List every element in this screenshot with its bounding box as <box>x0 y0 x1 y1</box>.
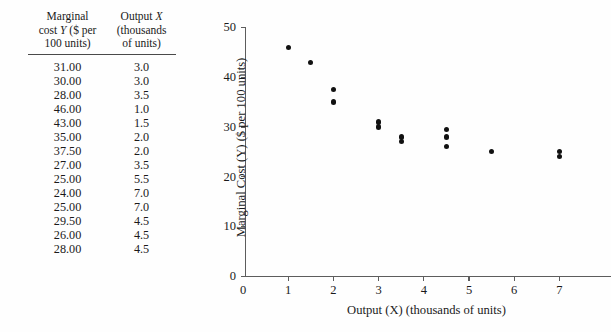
scatter-chart: 01020304050 01234567 Marginal Cost (Y) (… <box>196 0 611 332</box>
data-point <box>286 45 291 50</box>
cell-marginal-cost: 24.00 <box>28 186 107 200</box>
header-line: (thousands <box>109 24 174 38</box>
table-row: 29.504.5 <box>28 214 176 228</box>
cell-output: 4.5 <box>107 214 176 228</box>
cell-output: 4.5 <box>107 242 176 256</box>
header-line: Output X <box>109 10 174 24</box>
y-axis-tick-label: 0 <box>210 270 236 283</box>
cell-marginal-cost: 28.00 <box>28 242 107 256</box>
cell-output: 1.0 <box>107 102 176 116</box>
cell-marginal-cost: 26.00 <box>28 228 107 242</box>
table-row: 46.001.0 <box>28 102 176 116</box>
column-header-marginal-cost: Marginal cost Y ($ per 100 units) <box>28 10 107 54</box>
cell-output: 3.0 <box>107 54 176 74</box>
cell-marginal-cost: 25.00 <box>28 172 107 186</box>
header-line: cost Y ($ per <box>30 24 105 38</box>
table-row: 43.001.5 <box>28 116 176 130</box>
x-axis-tick-label: 0 <box>232 284 254 297</box>
data-point <box>444 144 449 149</box>
cell-output: 4.5 <box>107 228 176 242</box>
cell-marginal-cost: 31.00 <box>28 54 107 74</box>
data-point <box>376 124 381 129</box>
header-line: 100 units) <box>30 37 105 51</box>
y-axis-tick <box>241 276 246 277</box>
cell-marginal-cost: 29.50 <box>28 214 107 228</box>
table-row: 37.502.0 <box>28 144 176 158</box>
column-header-output: Output X (thousands of units) <box>107 10 176 54</box>
cell-marginal-cost: 25.00 <box>28 200 107 214</box>
cell-marginal-cost: 46.00 <box>28 102 107 116</box>
cell-output: 3.5 <box>107 158 176 172</box>
table-body: 31.003.030.003.028.003.546.001.043.001.5… <box>28 54 176 256</box>
data-point <box>331 99 336 104</box>
table-row: 31.003.0 <box>28 54 176 74</box>
table-header-row: Marginal cost Y ($ per 100 units) Output… <box>28 10 176 54</box>
table-row: 27.003.5 <box>28 158 176 172</box>
data-point <box>557 154 562 159</box>
x-axis-tick-label: 2 <box>322 284 344 297</box>
data-point <box>444 134 449 139</box>
x-axis-title: Output (X) (thousands of units) <box>242 303 611 318</box>
plot-area: 01020304050 01234567 Marginal Cost (Y) (… <box>196 0 611 332</box>
data-point <box>308 60 313 65</box>
x-axis-line <box>242 276 611 277</box>
data-point <box>331 87 336 92</box>
table-row: 25.007.0 <box>28 200 176 214</box>
cell-marginal-cost: 28.00 <box>28 88 107 102</box>
x-axis-tick <box>288 276 289 281</box>
table-row: 28.004.5 <box>28 242 176 256</box>
y-axis-tick-label: 40 <box>210 71 236 84</box>
data-point <box>444 127 449 132</box>
cell-marginal-cost: 37.50 <box>28 144 107 158</box>
table-header: Marginal cost Y ($ per 100 units) Output… <box>28 10 176 54</box>
header-line: of units) <box>109 37 174 51</box>
table-row: 30.003.0 <box>28 74 176 88</box>
observations-table: Marginal cost Y ($ per 100 units) Output… <box>28 10 176 256</box>
x-axis-tick <box>559 276 560 281</box>
cell-output: 2.0 <box>107 144 176 158</box>
data-point <box>399 139 404 144</box>
cell-output: 5.5 <box>107 172 176 186</box>
table-row: 24.007.0 <box>28 186 176 200</box>
cell-marginal-cost: 27.00 <box>28 158 107 172</box>
y-axis-tick-label: 20 <box>210 171 236 184</box>
cell-output: 7.0 <box>107 186 176 200</box>
y-axis-tick-label: 10 <box>210 220 236 233</box>
data-table: Marginal cost Y ($ per 100 units) Output… <box>28 10 176 256</box>
header-line: Marginal <box>30 10 105 24</box>
data-point <box>489 149 494 154</box>
x-axis-tick-label: 4 <box>413 284 435 297</box>
y-axis-title: Marginal Cost (Y) ($ per 100 units) <box>234 23 249 273</box>
x-axis-tick-label: 1 <box>277 284 299 297</box>
x-axis-tick <box>378 276 379 281</box>
cell-output: 2.0 <box>107 130 176 144</box>
x-axis-tick-label: 7 <box>548 284 570 297</box>
x-axis-tick <box>423 276 424 281</box>
x-axis-tick <box>333 276 334 281</box>
cell-marginal-cost: 35.00 <box>28 130 107 144</box>
cell-output: 1.5 <box>107 116 176 130</box>
table-row: 35.002.0 <box>28 130 176 144</box>
cell-marginal-cost: 30.00 <box>28 74 107 88</box>
table-row: 26.004.5 <box>28 228 176 242</box>
x-axis-tick-label: 6 <box>503 284 525 297</box>
cell-output: 3.5 <box>107 88 176 102</box>
y-axis-tick-label: 30 <box>210 121 236 134</box>
table-row: 25.005.5 <box>28 172 176 186</box>
x-axis-tick <box>514 276 515 281</box>
x-axis-tick <box>468 276 469 281</box>
cell-output: 3.0 <box>107 74 176 88</box>
x-axis-tick-label: 3 <box>368 284 390 297</box>
y-axis-tick-label: 50 <box>210 21 236 34</box>
cell-marginal-cost: 43.00 <box>28 116 107 130</box>
x-axis-tick-label: 5 <box>458 284 480 297</box>
cell-output: 7.0 <box>107 200 176 214</box>
table-row: 28.003.5 <box>28 88 176 102</box>
